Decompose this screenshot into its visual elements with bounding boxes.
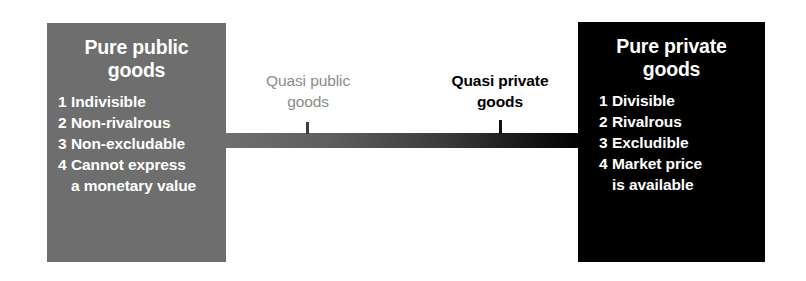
list-item-label: Excludible — [612, 132, 765, 153]
quasi-public-goods-label-line2: goods — [287, 93, 329, 110]
list-item-continuation: is available — [599, 174, 765, 195]
list-item-label: Cannot express — [71, 154, 226, 175]
list-item: 1 Indivisible — [58, 91, 226, 112]
list-item-continuation-label: is available — [599, 174, 694, 195]
list-item-label: Non-excludable — [71, 133, 226, 154]
spectrum-tick-quasi-private — [499, 120, 502, 134]
list-item: 4 Market price — [599, 153, 765, 174]
list-item: 3 Excludible — [599, 132, 765, 153]
spectrum-gradient-bar — [222, 133, 584, 148]
quasi-private-goods-label-line1: Quasi private — [452, 72, 549, 89]
list-item-number: 1 — [58, 91, 71, 112]
quasi-private-goods-label: Quasi private goods — [424, 70, 576, 112]
list-item-label: Non-rivalrous — [71, 112, 226, 133]
public-private-goods-spectrum-diagram: Pure public goods 1 Indivisible 2 Non-ri… — [0, 0, 806, 281]
pure-public-goods-title-line2: goods — [108, 59, 166, 81]
list-item-number: 3 — [599, 132, 612, 153]
pure-private-goods-box: Pure private goods 1 Divisible 2 Rivalro… — [578, 22, 765, 262]
list-item-number: 4 — [58, 154, 71, 175]
pure-public-goods-box: Pure public goods 1 Indivisible 2 Non-ri… — [47, 23, 226, 262]
pure-private-goods-title-line2: goods — [643, 58, 701, 80]
list-item: 3 Non-excludable — [58, 133, 226, 154]
pure-private-goods-title-line1: Pure private — [616, 35, 726, 57]
list-item: 2 Rivalrous — [599, 111, 765, 132]
pure-public-goods-title: Pure public goods — [47, 23, 226, 82]
list-item: 4 Cannot express — [58, 154, 226, 175]
list-item-number: 4 — [599, 153, 612, 174]
list-item-label: Rivalrous — [612, 111, 765, 132]
spectrum-tick-quasi-public — [306, 122, 309, 134]
quasi-private-goods-label-line2: goods — [477, 93, 523, 110]
list-item: 1 Divisible — [599, 90, 765, 111]
list-item-label: Market price — [612, 153, 765, 174]
list-item-number: 1 — [599, 90, 612, 111]
quasi-public-goods-label-line1: Quasi public — [266, 72, 350, 89]
pure-private-goods-title: Pure private goods — [578, 22, 765, 81]
pure-public-goods-list: 1 Indivisible 2 Non-rivalrous 3 Non-excl… — [47, 91, 226, 196]
list-item-number: 3 — [58, 133, 71, 154]
list-item-number: 2 — [58, 112, 71, 133]
list-item-label: Divisible — [612, 90, 765, 111]
list-item-label: Indivisible — [71, 91, 226, 112]
quasi-public-goods-label: Quasi public goods — [234, 70, 382, 112]
list-item-continuation: a monetary value — [58, 175, 226, 196]
list-item-number: 2 — [599, 111, 612, 132]
pure-public-goods-title-line1: Pure public — [85, 36, 189, 58]
list-item: 2 Non-rivalrous — [58, 112, 226, 133]
list-item-continuation-label: a monetary value — [58, 175, 196, 196]
pure-private-goods-list: 1 Divisible 2 Rivalrous 3 Excludible 4 M… — [578, 90, 765, 195]
